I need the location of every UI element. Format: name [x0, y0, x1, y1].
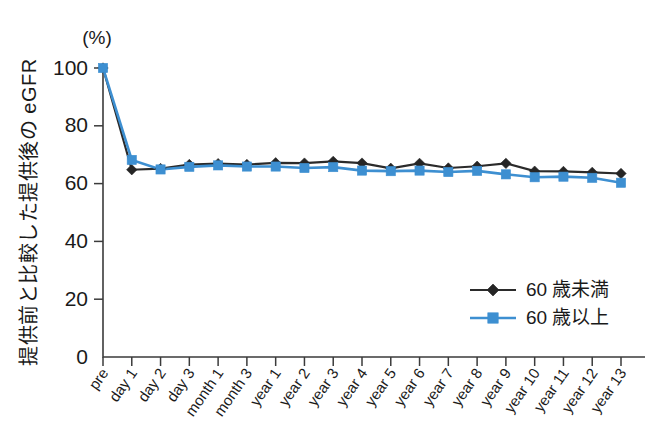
- x-tick-label-pre: pre: [85, 365, 111, 393]
- data-point-series2: [329, 163, 338, 172]
- x-tick-label-day-1: day 1: [105, 365, 140, 405]
- y-tick-label-100: 100: [53, 56, 88, 79]
- data-point-series2: [127, 155, 136, 164]
- x-tick-label-day-2: day 2: [134, 365, 169, 405]
- legend-label-2: 60 歳以上: [526, 307, 609, 328]
- data-point-series2: [242, 162, 251, 171]
- y-tick-label-0: 0: [76, 345, 88, 368]
- y-axis-unit-label: (%): [82, 27, 112, 48]
- data-point-series2: [473, 166, 482, 175]
- data-point-series1: [127, 165, 137, 175]
- legend-label-1: 60 歳未満: [526, 279, 609, 300]
- data-point-series2: [98, 63, 107, 72]
- legend-marker-diamond: [487, 284, 499, 296]
- data-point-series2: [386, 167, 395, 176]
- legend-marker-square: [488, 313, 498, 323]
- data-point-series2: [559, 172, 568, 181]
- data-point-series2: [530, 173, 539, 182]
- data-point-series2: [271, 162, 280, 171]
- data-point-series1: [501, 158, 511, 168]
- data-point-series2: [588, 173, 597, 182]
- y-tick-label-20: 20: [65, 287, 88, 310]
- data-point-series2: [501, 170, 510, 179]
- y-tick-label-60: 60: [65, 171, 88, 194]
- y-tick-label-40: 40: [65, 229, 88, 252]
- data-point-series2: [214, 161, 223, 170]
- y-tick-label-80: 80: [65, 113, 88, 136]
- y-axis-title: 提供前と比較した提供後の eGFR: [18, 58, 40, 365]
- egfr-line-chart: (%)提供前と比較した提供後の eGFR020406080100preday 1…: [0, 0, 663, 448]
- chart-figure: (%)提供前と比較した提供後の eGFR020406080100preday 1…: [0, 0, 663, 448]
- data-point-series2: [357, 166, 366, 175]
- data-point-series2: [444, 167, 453, 176]
- data-point-series2: [616, 178, 625, 187]
- data-point-series2: [300, 163, 309, 172]
- data-point-series2: [185, 162, 194, 171]
- data-point-series1: [616, 168, 626, 178]
- data-point-series2: [156, 165, 165, 174]
- data-point-series2: [415, 166, 424, 175]
